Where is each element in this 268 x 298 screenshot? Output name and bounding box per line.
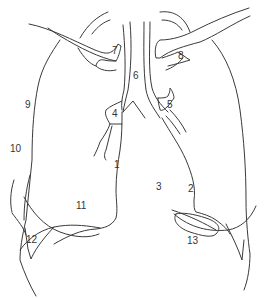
label-1: 1: [114, 159, 120, 170]
right-heart-border: [54, 112, 122, 244]
label-13: 13: [187, 235, 199, 246]
label-4: 4: [112, 108, 118, 119]
label-3: 3: [156, 181, 162, 192]
left-scapula-inner: [92, 20, 110, 34]
left-first-rib-lower: [96, 66, 116, 71]
hilum-5-vessel: [170, 110, 186, 132]
label-9: 9: [25, 99, 31, 110]
chest-wall-10: [11, 180, 14, 212]
right-costophrenic-curve: [24, 197, 99, 237]
label-2: 2: [188, 183, 194, 194]
hilum-4-vessel: [105, 126, 113, 160]
right-scapula-inner: [162, 20, 182, 30]
left-diaphragm: [174, 206, 256, 230]
trachea-right-wall: [144, 22, 160, 118]
label-6: 6: [133, 70, 139, 81]
label-7: 7: [112, 45, 118, 56]
right-lung-border: [20, 40, 60, 296]
carina: [123, 101, 145, 118]
right-clavicle: [155, 8, 250, 58]
left-clavicle: [29, 24, 121, 61]
left-lung-border: [212, 40, 250, 290]
label-10: 10: [10, 143, 22, 154]
label-5: 5: [167, 99, 173, 110]
hilum-4-outline: [94, 101, 122, 156]
label-12: 12: [26, 234, 38, 245]
diagram-drawing: 1 2 3 4 5 6 7 8 9 10 11 12 13: [0, 0, 268, 298]
label-8: 8: [178, 50, 184, 61]
trachea-right-inner: [150, 22, 169, 112]
left-costophrenic-angle: [226, 224, 244, 260]
chest-diagram: 1 2 3 4 5 6 7 8 9 10 11 12 13: [0, 0, 268, 298]
label-11: 11: [76, 200, 87, 211]
gastric-bubble-13: [175, 213, 219, 236]
right-scapula-upper: [160, 12, 190, 32]
left-heart-border: [162, 118, 230, 234]
left-scapula-upper: [80, 12, 108, 38]
trachea-left-wall: [122, 25, 125, 110]
